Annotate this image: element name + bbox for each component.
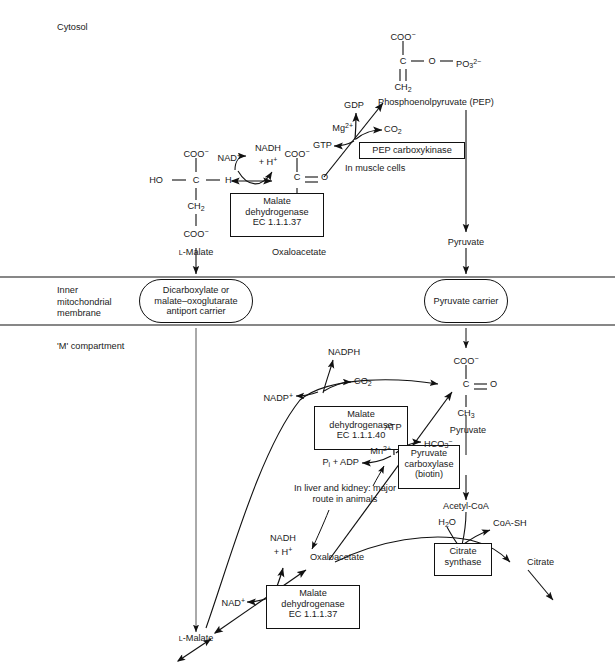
membrane-label-line3: membrane: [57, 308, 112, 320]
pyruvate-matrix-c-label: C: [463, 379, 470, 390]
dicarboxylate-carrier-line1: Dicarboxylate or: [163, 285, 229, 296]
l-malate-coo-bottom: COO−: [183, 228, 208, 239]
label-oxaloacetate-matrix: Oxaloacetate: [310, 552, 364, 563]
pyruvate-matrix-o-label: O: [490, 379, 497, 390]
label-h2o: H2O: [438, 517, 456, 530]
liver-kidney-line1: In liver and kidney: major: [285, 483, 405, 494]
label-coa-sh: CoA-SH: [493, 518, 527, 529]
label-hco3: HCO3−: [424, 436, 452, 451]
label-pyruvate-matrix: Pyruvate: [450, 425, 486, 436]
label-nadh-h-cytosol: NADH + H+: [255, 143, 281, 168]
label-l-malate-matrix: L-Malate: [179, 633, 214, 644]
enzyme-box-malate-dehydrogenase-matrix[interactable]: Malate dehydrogenase EC 1.1.1.37: [266, 585, 360, 629]
pc-line3: (biotin): [404, 469, 454, 480]
enzyme-box-pep-carboxykinase[interactable]: PEP carboxykinase: [359, 142, 465, 159]
pep-ch2-label: CH2: [394, 83, 411, 93]
label-in-muscle-cells: In muscle cells: [345, 163, 405, 174]
nadh-cytosol-line1: NADH: [255, 143, 281, 154]
membrane-label-line2: mitochondrial: [57, 297, 112, 309]
pc-line2: carboxylase: [404, 459, 454, 470]
oxaloacetate-cyt-o-label: O: [321, 172, 328, 183]
l-malate-c-label: C: [193, 175, 200, 186]
membrane-label-line1: Inner: [57, 285, 112, 297]
label-mg-ion: Mg2+: [332, 120, 353, 134]
label-atp: ATP: [384, 422, 401, 433]
l-malate-cytosol-bonds: [172, 158, 220, 226]
l-malate-ch2-label: CH2: [187, 202, 204, 212]
pep-c-label: C: [400, 56, 407, 67]
enzyme-box-malate-dehydrogenase-cytosolic[interactable]: Malate dehydrogenase EC 1.1.1.37: [230, 193, 324, 237]
oxaloacetate-cyt-c-label: C: [294, 172, 301, 183]
pep-coo-top: COO−: [390, 31, 415, 42]
label-phosphoenolpyruvate: Phosphoenolpyruvate (PEP): [378, 97, 494, 108]
label-gtp: GTP: [313, 140, 332, 151]
label-co2-cytosol: CO2: [384, 124, 402, 137]
label-citrate: Citrate: [527, 557, 554, 568]
l-malate-h-label: H: [225, 175, 232, 186]
carrier-pyruvate[interactable]: Pyruvate carrier: [424, 279, 508, 323]
compartment-label-membrane: Inner mitochondrial membrane: [57, 285, 112, 320]
pyruvate-matrix-ch3-label: CH3: [457, 409, 474, 419]
label-pyruvate-cytosol: Pyruvate: [448, 237, 484, 248]
pep-o-label: O: [428, 56, 435, 67]
l-malate-coo-top: COO−: [183, 149, 208, 159]
enzyme-box-citrate-synthase[interactable]: Citrate synthase: [434, 543, 492, 576]
cs-line2: synthase: [440, 557, 486, 568]
liver-kidney-annotation-arrows: [312, 466, 384, 549]
label-nadph: NADPH: [328, 347, 360, 358]
oxaloacetate-cyt-coo-top: COO−: [284, 148, 309, 159]
annotation-liver-kidney: In liver and kidney: major route in anim…: [285, 483, 405, 505]
carrier-dicarboxylate-antiport[interactable]: Dicarboxylate or malate–oxoglutarate ant…: [139, 279, 253, 323]
label-pi-adp: Pi + ADP: [322, 457, 359, 470]
label-nadh-h-matrix: NADH + H+: [270, 533, 296, 558]
mdh-nadp-line1: Malate: [320, 409, 402, 420]
dicarboxylate-carrier-line3: antiport carrier: [166, 306, 225, 317]
mdh-mat-line2: dehydrogenase: [272, 599, 354, 610]
compartment-label-cytosol: Cytosol: [57, 22, 88, 34]
label-oxaloacetate-cytosol: Oxaloacetate: [272, 247, 326, 258]
pep-structure-bonds: [400, 41, 453, 81]
nadh-matrix-line1: NADH: [270, 533, 296, 544]
label-mn-ion: Mn2+: [370, 443, 391, 457]
pyruvate-matrix-coo-top: COO−: [453, 355, 478, 366]
pathway-line-layer: [0, 0, 615, 667]
dicarboxylate-carrier-line2: malate–oxoglutarate: [154, 296, 237, 307]
pyruvate-carrier-line1: Pyruvate carrier: [434, 296, 499, 307]
mdh-cyt-line2: dehydrogenase: [236, 207, 318, 218]
enzyme-box-pyruvate-carboxylase[interactable]: Pyruvate carboxylase (biotin): [398, 445, 460, 489]
cs-line1: Citrate: [440, 546, 486, 557]
nadh-matrix-line2: + H+: [270, 544, 296, 558]
label-co2-matrix: CO2: [354, 376, 372, 389]
nadh-cytosol-line2: + H+: [255, 154, 281, 168]
label-nad-plus-cytosol: NAD+: [218, 150, 242, 164]
mdh-mat-line1: Malate: [272, 588, 354, 599]
mdh-cyt-line3: EC 1.1.1.37: [236, 217, 318, 228]
pathway-diagram-canvas: Cytosol Inner mitochondrial membrane 'M'…: [0, 0, 615, 667]
label-nadp-plus: NADP+: [263, 390, 293, 404]
pep-po3-label: PO32−: [456, 56, 481, 71]
pepck-line1: PEP carboxykinase: [365, 145, 459, 156]
label-nad-plus-matrix: NAD+: [222, 595, 246, 609]
mdh-cyt-line1: Malate: [236, 196, 318, 207]
liver-kidney-line2: route in animals: [285, 494, 405, 505]
compartment-label-matrix: 'M' compartment: [57, 341, 124, 353]
label-l-malate-cytosol: L-Malate: [179, 247, 214, 258]
label-gdp: GDP: [344, 100, 364, 111]
mdh-mat-line3: EC 1.1.1.37: [272, 609, 354, 620]
cytosol-transport-arrows: [196, 110, 466, 274]
l-malate-ho-label: HO: [149, 175, 163, 186]
structure-l-malate-cytosol: COO−: [183, 148, 208, 159]
label-acetyl-coa: Acetyl-CoA: [443, 501, 489, 512]
